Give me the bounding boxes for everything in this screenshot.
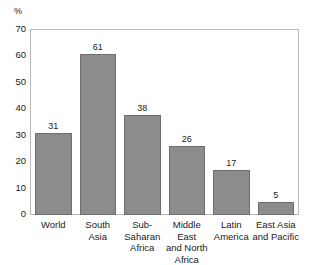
x-axis-category-label-line: Africa [118,242,167,254]
x-axis-category-label: LatinAmerica [207,219,256,242]
bar-value-label: 17 [213,158,250,168]
bars-area: 31613826175 [31,30,298,215]
bar-slot: 38 [124,30,161,215]
x-axis-category-label: East Asiaand Pacific [252,219,301,242]
bar-value-label: 38 [124,103,161,113]
y-axis-tick-label: 20 [15,156,26,166]
bar [169,146,206,215]
x-axis-category-label-line: Saharan [118,231,167,243]
x-axis-category-label-line: Africa [163,254,212,265]
bar [35,133,72,215]
x-axis-category-label-line: Asia [74,231,123,243]
x-axis-category-label-line: and Pacific [252,231,301,243]
bar-value-label: 26 [169,134,206,144]
bar [258,202,295,215]
bar-value-label: 61 [80,42,117,52]
bar-slot: 31 [35,30,72,215]
y-axis-tick-label: 40 [15,103,26,113]
bar-value-label: 5 [258,190,295,200]
x-axis-category-label-line: World [29,219,78,231]
bar-slot: 61 [80,30,117,215]
x-axis-category-label-line: Sub- [118,219,167,231]
x-axis-category-label-line: South [74,219,123,231]
bar [213,170,250,215]
x-axis-category-label: World [29,219,78,231]
x-axis-category-label: Sub-SaharanAfrica [118,219,167,254]
y-axis-tick-label: 50 [15,77,26,87]
x-axis-category-label: Middle Eastand NorthAfrica [163,219,212,265]
y-axis-tick-label: 30 [15,130,26,140]
y-axis-tick-label: 60 [15,50,26,60]
bar-slot: 17 [213,30,250,215]
x-axis-category-label-line: Latin [207,219,256,231]
bar [80,54,117,215]
x-axis-category-label-line: America [207,231,256,243]
bar-slot: 26 [169,30,206,215]
x-axis-category-label-line: Middle East [163,219,212,242]
y-axis: 010203040506070 [0,23,30,221]
y-axis-tick-label: 70 [15,24,26,34]
y-axis-tick-label: 0 [21,209,26,219]
y-axis-tick-label: 10 [15,183,26,193]
bar-value-label: 31 [35,121,72,131]
x-axis-category-labels: WorldSouthAsiaSub-SaharanAfricaMiddle Ea… [31,219,298,261]
x-axis-category-label: SouthAsia [74,219,123,242]
bar-slot: 5 [258,30,295,215]
bar [124,115,161,215]
x-axis-category-label-line: East Asia [252,219,301,231]
y-axis-unit-label: % [14,6,22,16]
x-axis-category-label-line: and North [163,242,212,254]
